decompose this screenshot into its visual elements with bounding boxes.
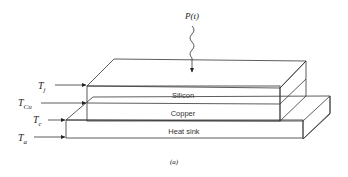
thermal-stack-diagram: Silicon Copper Heat sink P(t) Tj TCu Tc … xyxy=(0,0,348,177)
copper-label: Copper xyxy=(171,109,196,118)
tj-label: Tj xyxy=(38,80,46,94)
power-wavy-arrow xyxy=(190,26,194,72)
silicon-copper-stack xyxy=(87,59,306,121)
figure-caption: (a) xyxy=(170,158,179,166)
heat-sink-label: Heat sink xyxy=(168,127,200,136)
temperature-arrows xyxy=(34,85,86,137)
tcu-label: TCu xyxy=(18,97,32,111)
tc-label: Tc xyxy=(33,114,43,128)
ta-label: Ta xyxy=(18,132,28,146)
silicon-label: Silicon xyxy=(172,91,194,100)
power-label: P(t) xyxy=(184,11,199,21)
